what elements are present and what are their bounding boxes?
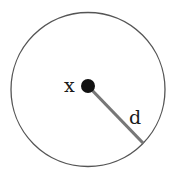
center-label: x (64, 74, 75, 96)
circle-radius-diagram: x d (0, 0, 176, 172)
distance-label: d (129, 106, 141, 128)
center-point (81, 79, 95, 93)
